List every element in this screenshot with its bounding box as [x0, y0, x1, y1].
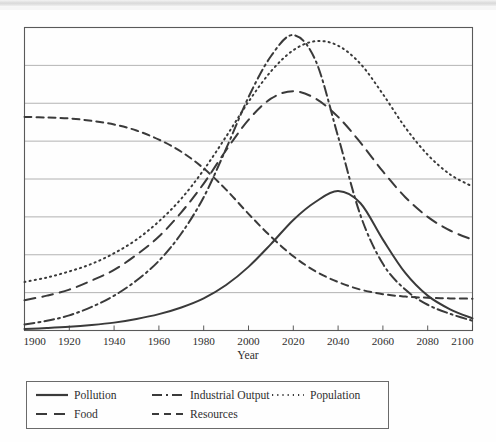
figure-page: 1900192019401960198020002020204020602080… [0, 0, 496, 442]
legend-label-population: Population [310, 389, 360, 402]
series-group [25, 35, 473, 329]
gridline-group [25, 65, 473, 292]
x-tick-label: 2080 [417, 335, 440, 347]
series-line-pollution [25, 191, 473, 329]
x-tick-label: 1960 [148, 335, 171, 347]
x-tick-label: 1940 [103, 335, 126, 347]
x-tick-label: 1900 [24, 335, 47, 347]
x-tick-label-group: 1900192019401960198020002020204020602080… [24, 335, 474, 347]
legend-label-industrial-output: Industrial Output [190, 389, 270, 402]
x-tick-label: 2100 [451, 335, 474, 347]
x-tick-label: 2000 [237, 335, 260, 347]
x-tick-label: 2020 [282, 335, 305, 347]
x-tick-label: 1980 [193, 335, 216, 347]
legend-label-pollution: Pollution [74, 389, 117, 402]
limits-to-growth-chart: 1900192019401960198020002020204020602080… [0, 0, 496, 442]
series-line-industrial-output [25, 35, 473, 324]
series-line-food [25, 91, 473, 300]
x-axis-title: Year [237, 349, 259, 362]
x-tick-label: 1920 [58, 335, 81, 347]
tickmark-group [25, 326, 473, 331]
legend-entries-group: PollutionIndustrial OutputPopulationFood… [36, 389, 360, 421]
legend-label-food: Food [74, 408, 98, 421]
series-line-population [25, 41, 473, 282]
x-tick-label: 2040 [327, 335, 350, 347]
legend-label-resources: Resources [190, 408, 238, 421]
x-tick-label: 2060 [372, 335, 395, 347]
